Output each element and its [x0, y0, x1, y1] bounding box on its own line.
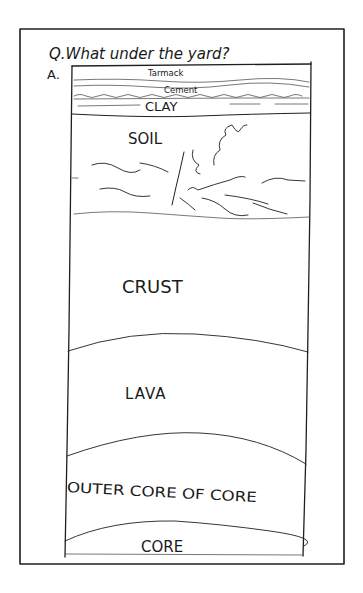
- layer-label-core: CORE: [141, 538, 183, 556]
- outercore-core-boundary: [65, 521, 308, 546]
- layer-label-tarmac: Tarmack: [147, 68, 184, 78]
- layer-label-soil: SOIL: [128, 130, 163, 148]
- column-top-edge: [72, 64, 311, 66]
- answer-label: A.: [47, 67, 60, 82]
- layer-label-clay: CLAY: [145, 99, 178, 114]
- layer-label-outer-core: OUTER CORE OF CORE: [67, 479, 258, 505]
- layer-label-cement: Cement: [164, 85, 198, 95]
- column-right-edge: [303, 62, 311, 556]
- clay-dash-line: [78, 104, 308, 106]
- layer-label-crust: CRUST: [122, 276, 184, 297]
- clay-soil-boundary: [72, 113, 310, 117]
- layer-label-lava: LAVA: [125, 385, 167, 403]
- crust-lava-boundary: [68, 333, 308, 352]
- question-text: Q.What under the yard?: [49, 45, 230, 63]
- yard-layers-diagram: Q.What under the yard? A. Tarmack Cement…: [0, 0, 363, 593]
- cement-clay-boundary: [74, 98, 309, 99]
- soil-roots-scribble: [72, 125, 309, 219]
- column-bottom-edge: [65, 554, 303, 555]
- tarmac-cement-boundary: [74, 78, 309, 82]
- lava-outercore-boundary: [67, 433, 306, 464]
